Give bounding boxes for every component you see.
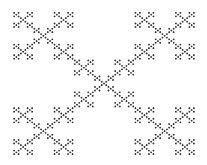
fractal-path xyxy=(13,12,194,154)
fractal-figure xyxy=(0,0,207,165)
